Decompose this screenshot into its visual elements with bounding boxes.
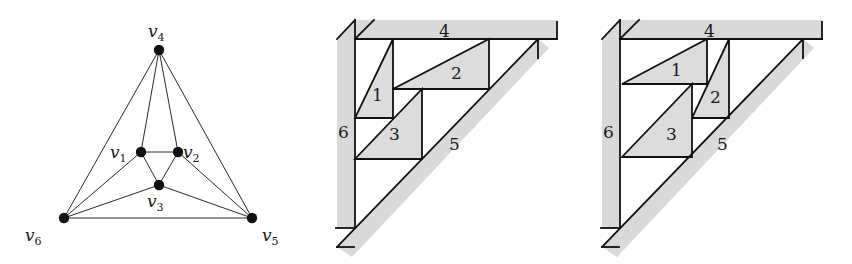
vertex-label-name: v	[147, 191, 157, 211]
vertex-v1	[136, 147, 146, 157]
side-4-band	[355, 20, 557, 39]
edge-v4-v6	[64, 50, 159, 218]
vertex-label-v2: v2	[183, 142, 200, 165]
planar-graph-panel: v1v2v3v4v5v6	[25, 21, 279, 248]
vertex-label-name: v	[183, 142, 193, 162]
graph-edges	[64, 50, 252, 218]
triangle-2	[393, 39, 489, 89]
edge-v3-v5	[159, 185, 252, 218]
side-label-left: 6	[338, 122, 349, 142]
vertex-v5	[247, 213, 257, 223]
triangle-1	[622, 39, 707, 84]
side-label-diagonal: 5	[449, 134, 460, 154]
side-label-diagonal: 5	[717, 134, 728, 154]
vertex-v2	[173, 147, 183, 157]
figure: v1v2v3v4v5v6 465123 465123	[0, 0, 852, 264]
vertex-label-name: v	[262, 225, 272, 245]
edge-v2-v3	[159, 152, 178, 185]
vertex-v4	[154, 45, 164, 55]
vertex-label-v3: v3	[147, 191, 164, 214]
vertex-label-v1: v1	[110, 142, 127, 165]
triangle-1	[355, 39, 393, 118]
triangle-label-3: 3	[389, 124, 400, 144]
vertex-label-v4: v4	[148, 21, 165, 44]
vertex-label-subscript: 2	[193, 152, 200, 165]
triangle-3	[622, 84, 692, 157]
vertex-v3	[154, 180, 164, 190]
vertex-label-subscript: 5	[272, 235, 279, 248]
vertex-label-name: v	[25, 225, 35, 245]
vertex-label-name: v	[110, 142, 120, 162]
side-label-top: 4	[439, 21, 450, 41]
vertex-label-subscript: 3	[157, 201, 164, 214]
triangle-label-2: 2	[451, 63, 462, 83]
triangle-label-2: 2	[710, 87, 721, 107]
triangle-label-1: 1	[372, 85, 383, 105]
triangle-label-3: 3	[666, 124, 677, 144]
vertex-label-subscript: 1	[120, 152, 127, 165]
edge-v4-v5	[159, 50, 252, 218]
contact-representation-b: 465123	[601, 20, 822, 257]
edge-v1-v3	[141, 152, 159, 185]
side-label-left: 6	[603, 122, 614, 142]
edge-v4-v2	[159, 50, 178, 152]
vertex-label-name: v	[148, 21, 158, 41]
vertex-label-subscript: 6	[35, 235, 42, 248]
vertex-label-v5: v5	[262, 225, 279, 248]
vertex-label-subscript: 4	[158, 31, 165, 44]
side-4-band	[620, 20, 822, 39]
side-label-top: 4	[704, 21, 715, 41]
contact-representation-a: 465123	[336, 20, 557, 257]
triangle-label-1: 1	[671, 60, 682, 80]
vertex-v6	[59, 213, 69, 223]
vertex-label-v6: v6	[25, 225, 42, 248]
edge-v3-v6	[64, 185, 159, 218]
edge-v1-v6	[64, 152, 141, 218]
